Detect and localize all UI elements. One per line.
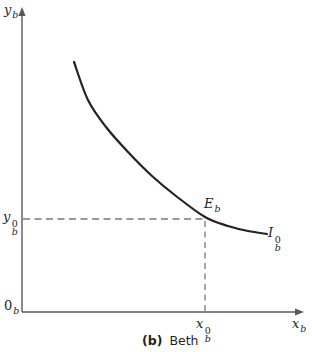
y-axis-label-base: y [4,2,11,17]
x-axis-label-base: x [292,316,299,331]
y-optimal-label: y0b [3,210,18,236]
x-optimal-label-sub: b [205,335,211,343]
origin-label-base: 0 [4,298,12,313]
equilibrium-label-base: E [204,196,214,211]
origin-label-sub: b [13,305,19,316]
x-axis-label-sub: b [300,323,306,334]
equilibrium-point-label: Eb [204,197,221,215]
figure-beth-indifference-curve: yb y0b 0b Eb I0b x0b xb (b)Beth [0,0,312,352]
x-optimal-label-base: x [196,316,203,331]
chart-canvas [0,0,312,352]
y-axis-label-sub: b [12,9,18,20]
y-optimal-label-base: y [3,209,10,224]
indifference-curve-label: I0b [268,226,281,252]
y-optimal-label-sub: b [12,228,18,236]
figure-caption: (b)Beth [142,333,198,348]
indifference-label-base: I [268,225,273,240]
indifference-curve [74,62,267,234]
x-axis-arrowhead-icon [295,308,304,315]
caption-index: (b) [142,333,162,348]
y-axis-arrowhead-icon [18,7,25,16]
origin-label: 0b [4,299,19,317]
equilibrium-label-sub: b [215,203,221,214]
indifference-label-sub: b [275,244,281,252]
caption-name: Beth [169,333,198,348]
y-axis-label: yb [4,3,18,21]
x-axis-label: xb [292,317,306,335]
